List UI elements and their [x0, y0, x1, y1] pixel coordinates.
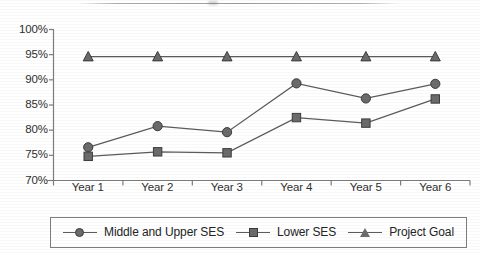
series-line-middle-and-upper-ses: [88, 83, 435, 147]
x-axis-tick-label: Year 6: [401, 181, 471, 201]
square-marker-icon: [236, 226, 270, 240]
data-point-middle-and-upper-ses-year-5[interactable]: [361, 94, 370, 103]
legend-item-lower-ses[interactable]: Lower SES: [236, 226, 336, 240]
circle-marker-icon: [63, 226, 97, 240]
data-point-lower-ses-year-3[interactable]: [223, 149, 231, 157]
legend-item-label: Middle and Upper SES: [104, 226, 224, 239]
series-lines: [88, 57, 435, 157]
axis-lines: [46, 29, 470, 181]
legend-item-project-goal[interactable]: Project Goal: [348, 226, 454, 240]
y-axis-ticks: [49, 30, 54, 181]
x-axis: Year 1Year 2Year 3Year 4Year 5Year 6: [53, 181, 470, 201]
x-axis-tick-label: Year 2: [123, 181, 193, 201]
x-axis-tick-label: Year 5: [331, 181, 401, 201]
data-point-lower-ses-year-1[interactable]: [84, 152, 92, 160]
triangle-marker-icon: [348, 226, 382, 240]
series-markers: [83, 51, 440, 160]
line-chart: 100%95%90%85%80%75%70% Year 1Year 2Year …: [0, 0, 480, 213]
x-axis-tick-label: Year 1: [53, 181, 123, 201]
chart-legend: Middle and Upper SES Lower SES Project G…: [50, 217, 467, 248]
data-point-lower-ses-year-6[interactable]: [431, 95, 439, 103]
data-point-middle-and-upper-ses-year-4[interactable]: [292, 79, 301, 88]
legend-item-middle-and-upper-ses[interactable]: Middle and Upper SES: [63, 226, 224, 240]
x-axis-tick-label: Year 3: [192, 181, 262, 201]
legend-item-label: Project Goal: [389, 226, 454, 239]
legend-item-label: Lower SES: [277, 226, 336, 239]
data-point-lower-ses-year-2[interactable]: [153, 148, 161, 156]
data-point-lower-ses-year-4[interactable]: [292, 113, 300, 121]
data-point-middle-and-upper-ses-year-1[interactable]: [84, 143, 93, 152]
data-point-middle-and-upper-ses-year-2[interactable]: [153, 122, 162, 131]
data-point-lower-ses-year-5[interactable]: [362, 119, 370, 127]
data-point-middle-and-upper-ses-year-6[interactable]: [431, 79, 440, 88]
data-point-middle-and-upper-ses-year-3[interactable]: [222, 128, 231, 137]
x-axis-tick-label: Year 4: [262, 181, 332, 201]
